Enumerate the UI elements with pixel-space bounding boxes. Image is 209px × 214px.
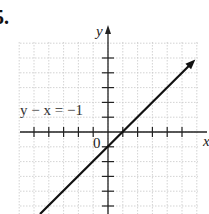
axes bbox=[20, 25, 207, 214]
x-axis-label: x bbox=[202, 133, 209, 149]
y-axis-label: y bbox=[94, 23, 103, 39]
origin-label: 0 bbox=[93, 135, 101, 151]
equation-label: y − x = −1 bbox=[20, 102, 83, 118]
coordinate-plane: x y 0 y − x = −1 bbox=[0, 0, 209, 214]
